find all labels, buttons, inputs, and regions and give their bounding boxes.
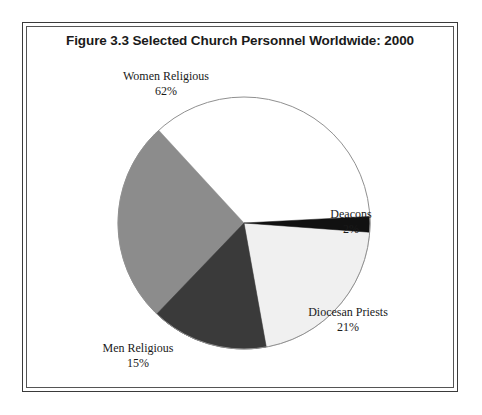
figure-border-frame: Figure 3.3 Selected Church Personnel Wor… <box>22 22 458 392</box>
slice-label-diocesan-priests: Diocesan Priests 21% <box>273 305 423 336</box>
slice-label-name: Men Religious <box>63 341 213 356</box>
slice-label-value: 62% <box>91 84 241 99</box>
slice-label-value: 2% <box>291 222 411 237</box>
slice-label-value: 15% <box>63 356 213 371</box>
slice-label-deacons: Deacons 2% <box>291 207 411 238</box>
slice-label-name: Deacons <box>291 207 411 222</box>
slice-label-value: 21% <box>273 320 423 335</box>
slice-label-men-religious: Men Religious 15% <box>63 341 213 372</box>
slice-label-name: Diocesan Priests <box>273 305 423 320</box>
slice-label-women-religious: Women Religious 62% <box>91 69 241 100</box>
figure-page: Figure 3.3 Selected Church Personnel Wor… <box>0 0 482 415</box>
slice-label-name: Women Religious <box>91 69 241 84</box>
